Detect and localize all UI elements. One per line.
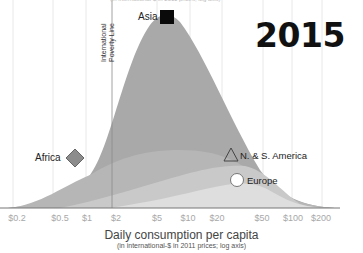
x-tick: $200: [311, 213, 331, 223]
top-caption-fragment: (in international-$ in 2011 prices; log …: [110, 0, 221, 2]
chart-title-year: 2015: [255, 16, 345, 55]
label-americas: N. & S. America: [240, 150, 307, 161]
x-tick: $0.2: [8, 213, 26, 223]
poverty-label-line2: Poverty Line: [108, 0, 116, 62]
x-tick: $100: [283, 213, 303, 223]
label-asia: Asia: [138, 11, 157, 22]
x-tick: $50: [254, 213, 269, 223]
x-axis-sublabel: (in international-$ in 2011 prices; log …: [0, 242, 363, 249]
x-tick: $5: [152, 213, 162, 223]
label-africa: Africa: [35, 152, 61, 163]
asia-marker-square-icon: [160, 10, 174, 24]
poverty-label-line1: International: [100, 0, 108, 62]
x-tick: $2: [111, 213, 121, 223]
x-tick: $1: [82, 213, 92, 223]
x-tick: $20: [209, 213, 224, 223]
x-tick: $0.5: [51, 213, 69, 223]
poverty-line-label: International Poverty Line: [100, 0, 124, 62]
x-axis-label: Daily consumption per capita: [0, 228, 363, 242]
africa-marker-diamond-icon: [66, 149, 84, 167]
x-tick: $10: [180, 213, 195, 223]
europe-marker-circle-icon: [231, 174, 244, 187]
label-europe: Europe: [247, 175, 278, 186]
